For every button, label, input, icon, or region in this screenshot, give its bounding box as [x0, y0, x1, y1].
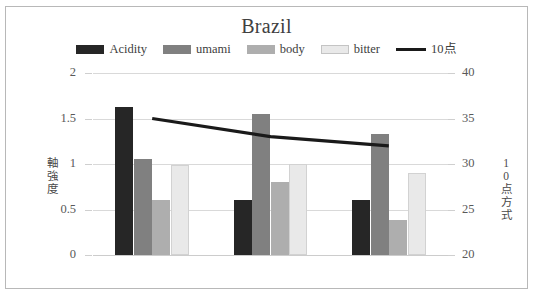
legend-label-bitter: bitter	[354, 43, 380, 56]
legend-label-umami: umami	[196, 43, 231, 56]
y-tick-label-left: 1	[36, 157, 76, 170]
legend-label-acidity: Acidity	[109, 43, 147, 56]
y-tick-mark-right	[448, 119, 455, 120]
plot-area: 00.511.52 2025303540 SWPNN	[93, 73, 448, 255]
legend-swatch-umami	[163, 45, 191, 54]
legend-item-umami[interactable]: umami	[163, 43, 231, 56]
y-tick-label-left: 0	[36, 248, 76, 261]
y-tick-label-right: 25	[462, 203, 502, 216]
y-tick-label-left: 0.5	[36, 203, 76, 216]
y-tick-label-right: 35	[462, 112, 502, 125]
y-tick-label-left: 1.5	[36, 112, 76, 125]
legend-swatch-bitter	[321, 45, 349, 54]
y-tick-label-right: 30	[462, 157, 502, 170]
legend-item-body[interactable]: body	[247, 43, 305, 56]
legend-item-bitter[interactable]: bitter	[321, 43, 380, 56]
y-tick-mark-left	[85, 164, 92, 165]
legend-item-acidity[interactable]: Acidity	[76, 43, 147, 56]
legend-label-10ten: 10点	[431, 43, 457, 56]
gridline	[93, 255, 448, 256]
y-tick-label-left: 2	[36, 66, 76, 79]
y-tick-mark-left	[85, 119, 92, 120]
legend-item-10ten[interactable]: 10点	[396, 43, 457, 56]
y-tick-mark-right	[448, 210, 455, 211]
chart-frame: Brazil Acidity umami body bitter 10点 軸強度…	[5, 6, 528, 289]
y-tick-mark-left	[85, 255, 92, 256]
line-series-10ten	[93, 73, 448, 255]
chart-title: Brazil	[6, 15, 527, 38]
y-tick-label-right: 40	[462, 66, 502, 79]
y-tick-label-right: 20	[462, 248, 502, 261]
y-tick-mark-right	[448, 73, 455, 74]
y-tick-mark-left	[85, 210, 92, 211]
legend-label-body: body	[280, 43, 305, 56]
y-tick-mark-right	[448, 164, 455, 165]
y-tick-mark-right	[448, 255, 455, 256]
legend-swatch-acidity	[76, 45, 104, 54]
line-path-10ten[interactable]	[152, 119, 389, 146]
legend-swatch-10ten	[396, 48, 426, 51]
chart-legend: Acidity umami body bitter 10点	[6, 43, 527, 56]
legend-swatch-body	[247, 45, 275, 54]
y-tick-mark-left	[85, 73, 92, 74]
